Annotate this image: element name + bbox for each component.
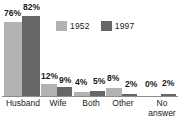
- plot-area: 76% 82% 12% 9% 4% 5%: [0, 0, 182, 97]
- bar-husband-1952: [4, 22, 22, 96]
- bar-chart: 1952 1997 76% 82% 12% 9% 4%: [0, 0, 182, 118]
- bars-husband: [4, 0, 40, 96]
- category-label-no-answer: No answer: [142, 99, 182, 118]
- bar-wife-1997: [57, 87, 72, 96]
- bar-group-both: 4% 5%: [74, 0, 108, 96]
- bars-both: [74, 0, 105, 96]
- category-label-wife: Wife: [40, 99, 76, 109]
- bars-wife: [41, 0, 72, 96]
- bars-no-answer: [145, 0, 176, 96]
- category-label-both: Both: [74, 99, 108, 109]
- bar-group-no-answer: 0% 2%: [145, 0, 179, 96]
- bar-other-1952: [106, 88, 122, 96]
- bar-husband-1997: [22, 16, 40, 96]
- axis-baseline: [2, 96, 178, 97]
- bar-group-wife: 12% 9%: [41, 0, 75, 96]
- bar-group-other: 8% 2%: [106, 0, 140, 96]
- bar-group-husband: 76% 82%: [4, 0, 42, 96]
- bars-other: [106, 0, 137, 96]
- category-label-other: Other: [106, 99, 140, 109]
- bar-wife-1952: [41, 84, 57, 96]
